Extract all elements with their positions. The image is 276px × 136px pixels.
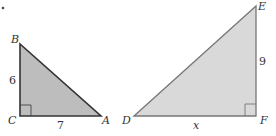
triangle-abc-shape: [20, 44, 101, 116]
side-length-df: x: [193, 119, 200, 132]
side-length-bc: 6: [9, 74, 16, 87]
vertex-label-f: F: [259, 114, 268, 127]
side-length-ca: 7: [57, 119, 64, 132]
bullet-marker: [2, 7, 5, 10]
side-length-ef: 9: [259, 55, 266, 68]
diagram-svg: B C A 6 7 D E F 9 x: [0, 0, 276, 136]
vertex-label-d: D: [121, 114, 131, 127]
vertex-label-e: E: [257, 0, 266, 13]
triangle-def: [134, 6, 256, 116]
triangle-abc: [20, 44, 101, 116]
similar-triangles-diagram: B C A 6 7 D E F 9 x: [0, 0, 276, 136]
triangle-def-shape: [134, 6, 256, 116]
vertex-label-b: B: [10, 33, 19, 46]
vertex-label-c: C: [8, 114, 17, 127]
vertex-label-a: A: [101, 114, 110, 127]
